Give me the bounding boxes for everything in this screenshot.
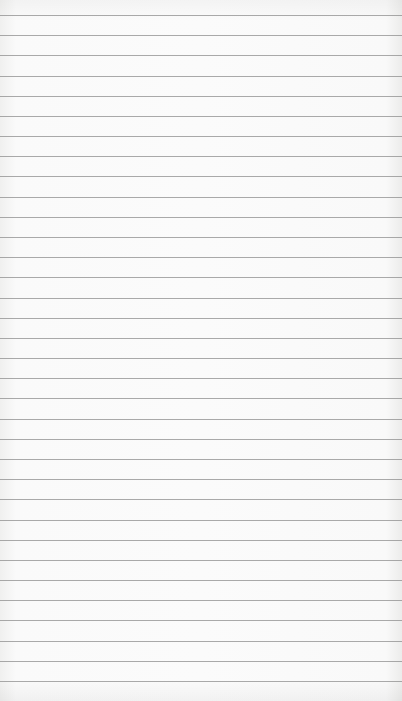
paper-shading bbox=[0, 0, 402, 701]
